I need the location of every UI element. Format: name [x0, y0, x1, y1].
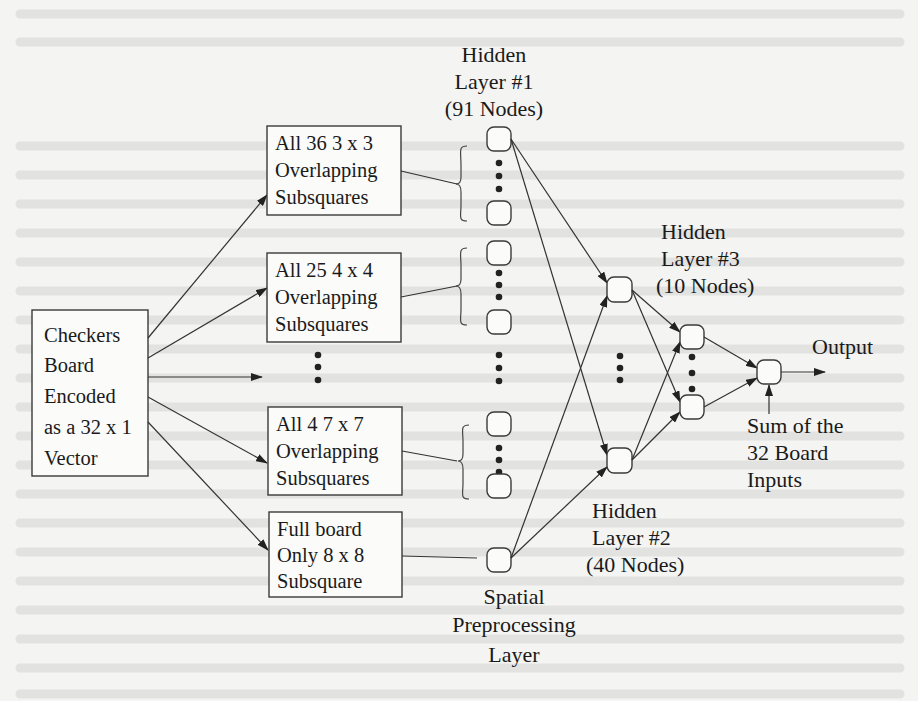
label-line: Inputs — [747, 467, 802, 492]
label-line: (91 Nodes) — [445, 96, 543, 121]
subsquare-box-8x8: Full board Only 8 x 8 Subsquare — [269, 512, 402, 597]
input-box-line: Checkers — [44, 324, 120, 346]
label-line: Hidden — [462, 42, 527, 67]
box-line: Overlapping — [275, 286, 377, 309]
label-line: Hidden — [592, 498, 657, 523]
label-hidden1: Hidden Layer #1 (91 Nodes) — [445, 42, 543, 121]
hidden2-node — [607, 277, 632, 302]
box-line: Full board — [277, 518, 362, 540]
input-box-line: Vector — [44, 447, 98, 469]
box-line: Only 8 x 8 — [277, 544, 364, 567]
subsquare-box-4x4: All 25 4 x 4 Overlapping Subsquares — [267, 253, 401, 342]
box-line: All 36 3 x 3 — [275, 132, 373, 154]
spatial-node — [487, 310, 511, 334]
spatial-node — [487, 241, 511, 265]
input-box-line: Board — [44, 354, 94, 376]
box-line: Overlapping — [275, 159, 377, 182]
hidden3-node — [680, 325, 704, 349]
hidden3-nodes — [680, 325, 704, 419]
hidden2-node — [607, 448, 632, 473]
label-spatial: Spatial Preprocessing Layer — [452, 584, 575, 667]
input-box-line: Encoded — [44, 385, 116, 407]
label-line: Layer — [488, 642, 540, 667]
spatial-node — [487, 548, 511, 572]
subsquare-box-7x7: All 4 7 x 7 Overlapping Subsquares — [268, 407, 402, 495]
network-diagram: Checkers Board Encoded as a 32 x 1 Vecto… — [0, 0, 918, 701]
spatial-node — [487, 474, 511, 498]
ellipsis-dots-boxes — [315, 352, 322, 384]
label-line: Layer #3 — [661, 246, 740, 271]
box-line: Subsquares — [276, 467, 369, 490]
spatial-node — [487, 201, 511, 225]
label-line: (10 Nodes) — [656, 273, 754, 298]
input-box-line: as a 32 x 1 — [44, 416, 132, 438]
label-line: Sum of the — [747, 413, 844, 438]
box-line: Subsquare — [277, 570, 362, 593]
label-line: Preprocessing — [452, 612, 575, 637]
label-hidden2: Hidden Layer #2 (40 Nodes) — [586, 498, 684, 577]
box-line: Overlapping — [276, 440, 378, 463]
input-box: Checkers Board Encoded as a 32 x 1 Vecto… — [32, 310, 148, 476]
label-line: Spatial — [483, 584, 544, 609]
box-line: Subsquares — [275, 186, 368, 209]
box-line: Subsquares — [275, 313, 368, 336]
label-line: (40 Nodes) — [586, 552, 684, 577]
label-line: Hidden — [661, 219, 726, 244]
label-line: Layer #1 — [455, 69, 534, 94]
label-line: Layer #2 — [592, 525, 671, 550]
box-line: All 4 7 x 7 — [276, 413, 364, 435]
spatial-node — [487, 412, 511, 436]
box-line: All 25 4 x 4 — [275, 259, 373, 281]
output-label: Output — [812, 334, 873, 359]
label-output: Output — [812, 334, 873, 359]
hidden3-node — [680, 395, 704, 419]
label-bias-input: Sum of the 32 Board Inputs — [747, 413, 844, 492]
spatial-node — [487, 127, 511, 151]
subsquare-box-3x3: All 36 3 x 3 Overlapping Subsquares — [267, 126, 401, 215]
label-line: 32 Board — [747, 440, 828, 465]
